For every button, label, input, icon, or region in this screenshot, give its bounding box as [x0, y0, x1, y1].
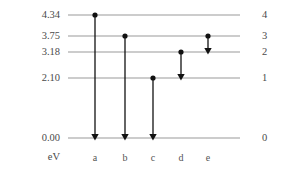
- transition-start-dot: [150, 75, 155, 80]
- transition-letter-label: d: [171, 153, 191, 163]
- quantum-number-label: 3: [262, 31, 286, 42]
- transition-arrows: [92, 12, 210, 137]
- transition-start-dot: [205, 33, 210, 38]
- quantum-number-label: 0: [262, 133, 286, 144]
- quantum-number-label: 4: [262, 10, 286, 21]
- energy-value-label: 3.75: [14, 31, 60, 42]
- transition-letter-label: b: [115, 153, 135, 163]
- energy-value-label: 4.34: [14, 10, 60, 21]
- energy-value-label: 0.00: [14, 133, 60, 144]
- energy-unit-label: eV: [14, 152, 60, 163]
- transition-start-dot: [178, 49, 183, 54]
- transition-letter-label: a: [85, 153, 105, 163]
- transition-start-dot: [92, 12, 97, 17]
- energy-value-label: 2.10: [14, 73, 60, 84]
- energy-value-label: 3.18: [14, 47, 60, 58]
- diagram-canvas: [0, 0, 291, 172]
- transition-letter-label: c: [143, 153, 163, 163]
- quantum-number-label: 2: [262, 47, 286, 58]
- quantum-number-label: 1: [262, 73, 286, 84]
- transition-letter-label: e: [198, 153, 218, 163]
- transition-start-dot: [122, 33, 127, 38]
- energy-level-diagram: 4.343.753.182.100.00 43210 abcde eV: [0, 0, 291, 172]
